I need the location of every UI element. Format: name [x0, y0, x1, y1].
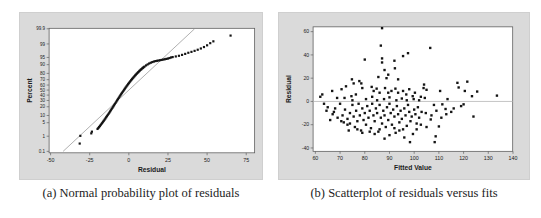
svg-text:20: 20 [303, 75, 309, 81]
svg-text:-40: -40 [302, 145, 310, 151]
svg-text:75: 75 [243, 157, 249, 163]
figure-pair: -50-25025507599.999959080706050403020105… [0, 0, 541, 218]
svg-text:70: 70 [40, 77, 46, 82]
svg-text:5: 5 [43, 120, 46, 125]
svg-text:50: 50 [204, 157, 210, 163]
svg-text:90: 90 [40, 62, 46, 67]
svg-text:120: 120 [459, 155, 468, 161]
svg-text:0: 0 [306, 98, 309, 104]
svg-text:130: 130 [484, 155, 493, 161]
residuals-vs-fits-scatterplot: 607080901001101201301406040200-20-40Fitt… [279, 13, 529, 179]
svg-text:40: 40 [303, 52, 309, 58]
svg-text:60: 60 [303, 28, 309, 34]
svg-text:-50: -50 [47, 157, 55, 163]
svg-text:30: 30 [40, 98, 46, 103]
svg-text:110: 110 [435, 155, 444, 161]
svg-text:140: 140 [509, 155, 518, 161]
svg-text:Residual: Residual [285, 75, 292, 103]
normal-probability-plot-panel: -50-25025507599.999959080706050403020105… [19, 12, 263, 180]
svg-text:90: 90 [387, 155, 393, 161]
caption-b: (b) Scatterplot of residuals versus fits [278, 186, 530, 201]
svg-text:1: 1 [43, 134, 46, 139]
svg-text:Fitted Value: Fitted Value [394, 164, 432, 171]
svg-text:99.9: 99.9 [36, 26, 45, 31]
caption-a: (a) Normal probability plot of residuals [19, 186, 263, 201]
residuals-vs-fits-panel: 607080901001101201301406040200-20-40Fitt… [278, 12, 530, 180]
svg-text:Residual: Residual [138, 166, 166, 173]
svg-text:80: 80 [362, 155, 368, 161]
svg-text:25: 25 [165, 157, 171, 163]
svg-text:80: 80 [40, 71, 46, 76]
svg-text:0: 0 [127, 157, 130, 163]
svg-text:20: 20 [40, 104, 46, 109]
svg-text:60: 60 [312, 155, 318, 161]
svg-text:40: 40 [40, 93, 46, 98]
svg-text:10: 10 [40, 113, 46, 118]
svg-text:70: 70 [337, 155, 343, 161]
svg-text:100: 100 [410, 155, 419, 161]
normal-probability-plot: -50-25025507599.999959080706050403020105… [20, 13, 262, 179]
svg-text:Percent: Percent [26, 78, 33, 103]
svg-text:99: 99 [40, 42, 46, 47]
svg-text:95: 95 [40, 55, 46, 60]
svg-text:0.1: 0.1 [39, 149, 46, 154]
svg-text:-20: -20 [302, 121, 310, 127]
svg-text:-25: -25 [86, 157, 94, 163]
